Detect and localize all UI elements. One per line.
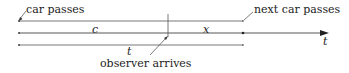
start-dot-axis	[18, 32, 20, 34]
segment-t-label: t	[127, 46, 131, 57]
next-car-dot	[242, 32, 245, 35]
segment-x-label: x	[203, 24, 209, 35]
car-passes-leader-arrow	[19, 17, 23, 21]
car-passes-label: car passes	[26, 4, 85, 15]
observer-arrives-label: observer arrives	[100, 58, 192, 69]
next-car-passes-leader	[244, 12, 253, 20]
observer-arrives-leader	[150, 37, 167, 55]
segment-c-label: c	[92, 24, 98, 35]
next-car-passes-label: next car passes	[254, 4, 340, 15]
time-axis-label: t	[323, 36, 327, 47]
end-dot-top	[242, 20, 244, 22]
timeline-diagram: car passes next car passes observer arri…	[0, 0, 349, 73]
end-dot-bottom	[242, 44, 244, 46]
start-dot-bottom	[18, 44, 20, 46]
